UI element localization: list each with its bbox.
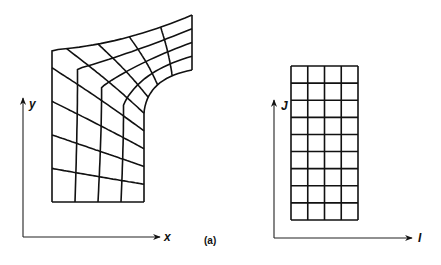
- x-axis-label: x: [163, 230, 172, 244]
- curved-grid-line-j: [52, 135, 144, 167]
- curvilinear-mesh: [52, 15, 192, 202]
- physical-axes: y x: [23, 97, 172, 244]
- curved-grid-line-j: [52, 168, 144, 184]
- figure-canvas: y x J I (a): [0, 0, 441, 265]
- curved-grid-line-j: [52, 68, 144, 131]
- y-axis-label: y: [28, 97, 37, 111]
- j-axis-label: J: [281, 99, 288, 113]
- computational-axes: J I: [274, 99, 422, 245]
- figure-caption: (a): [204, 235, 216, 246]
- rectangular-mesh: [291, 66, 358, 220]
- i-axis-label: I: [418, 231, 422, 245]
- curved-grid-line-i: [98, 43, 192, 203]
- curved-grid-line-j: [52, 101, 144, 148]
- curved-grid-line-i: [144, 70, 192, 202]
